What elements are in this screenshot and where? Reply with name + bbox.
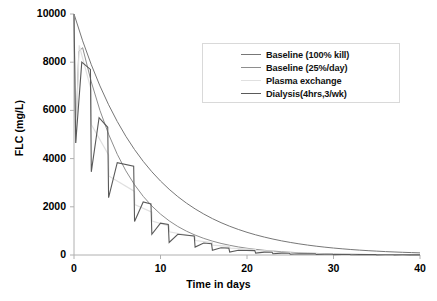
x-tick-label: 40 — [400, 262, 437, 274]
legend-swatch-icon — [241, 80, 261, 81]
chart-figure: FLC (mg/L) Time in days 0200040006000800… — [0, 0, 437, 301]
chart-legend: Baseline (100% kill)Baseline (25%/day)Pl… — [202, 43, 400, 103]
x-tick-label: 0 — [54, 262, 94, 274]
legend-swatch-icon — [241, 67, 261, 68]
legend-swatch-icon — [241, 54, 261, 55]
legend-item-label: Baseline (25%/day) — [266, 63, 347, 73]
legend-item-1[interactable]: Baseline (100% kill) — [241, 48, 399, 61]
legend-swatch-icon — [241, 93, 261, 94]
legend-item-4[interactable]: Dialysis(4hrs,3/wk) — [241, 87, 399, 100]
y-tick-label: 6000 — [6, 103, 66, 115]
y-axis-title: FLC (mg/L) — [13, 68, 25, 188]
legend-item-2[interactable]: Baseline (25%/day) — [241, 61, 399, 74]
y-tick-label: 0 — [6, 248, 66, 260]
x-axis-title: Time in days — [0, 278, 437, 290]
legend-rows: Baseline (100% kill)Baseline (25%/day)Pl… — [203, 48, 399, 100]
x-tick-label: 10 — [141, 262, 181, 274]
caption-strip — [0, 293, 437, 301]
y-tick-label: 10000 — [6, 7, 66, 19]
legend-item-label: Dialysis(4hrs,3/wk) — [266, 89, 347, 99]
y-tick-label: 2000 — [6, 200, 66, 212]
y-tick-label: 8000 — [6, 55, 66, 67]
x-tick-label: 20 — [227, 262, 267, 274]
y-tick-label: 4000 — [6, 152, 66, 164]
x-tick-label: 30 — [314, 262, 354, 274]
legend-item-label: Plasma exchange — [266, 76, 342, 86]
legend-item-label: Baseline (100% kill) — [266, 50, 349, 60]
legend-item-3[interactable]: Plasma exchange — [241, 74, 399, 87]
